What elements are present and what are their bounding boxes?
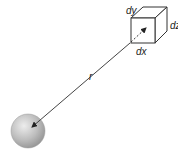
- sphere: [11, 114, 45, 148]
- distance-line: [32, 43, 130, 127]
- diagram-canvas: r dy dz dx: [0, 0, 178, 162]
- distance-label: r: [89, 71, 93, 82]
- sphere-icon: [11, 114, 45, 148]
- volume-element-cube: dy dz dx: [126, 5, 178, 57]
- diagram-svg: r dy dz dx: [0, 0, 178, 162]
- dz-label: dz: [170, 20, 178, 31]
- dx-label: dx: [136, 46, 148, 57]
- distance-vector: r: [32, 43, 130, 127]
- dy-label: dy: [126, 5, 138, 16]
